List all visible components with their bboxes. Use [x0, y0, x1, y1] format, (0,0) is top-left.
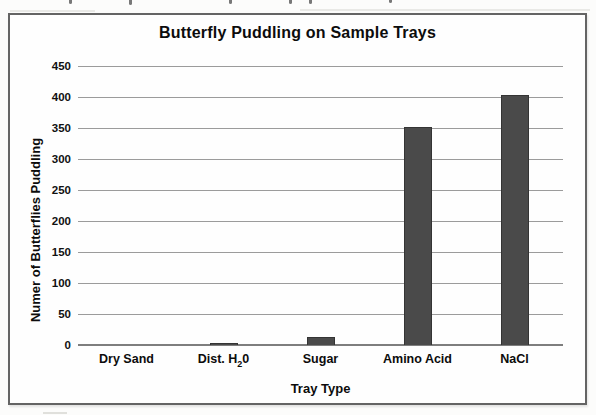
- x-tick-label-amino-acid: Amino Acid: [369, 352, 466, 368]
- scan-artifact-streak: [43, 412, 67, 414]
- scan-artifact-descender: [229, 0, 232, 4]
- scan-artifact-descender: [389, 0, 392, 3]
- y-tick-label-50: 50: [0, 306, 71, 322]
- gridline-300: [78, 159, 563, 160]
- y-tick-label-400: 400: [0, 89, 71, 105]
- y-tick-label-300: 300: [0, 151, 71, 167]
- bar-amino-acid: [404, 127, 432, 345]
- y-tick-label-250: 250: [0, 182, 71, 198]
- scan-artifact-descender: [289, 0, 292, 4]
- gridline-200: [78, 221, 563, 222]
- x-tick-label-dist-h-0: Dist. H20: [175, 352, 272, 368]
- bar-nacl: [501, 95, 529, 345]
- plot-area: [78, 66, 563, 345]
- gridline-350: [78, 128, 563, 129]
- y-tick-label-350: 350: [0, 120, 71, 136]
- scan-artifact-descender: [129, 0, 132, 5]
- scan-artifact-descender: [309, 0, 312, 4]
- scan-artifact-descender: [69, 0, 72, 4]
- scan-artifact-streak: [10, 10, 95, 12]
- y-tick-label-150: 150: [0, 244, 71, 260]
- y-tick-label-0: 0: [0, 337, 71, 353]
- gridline-100: [78, 283, 563, 284]
- x-tick-label-sugar: Sugar: [272, 352, 369, 368]
- gridline-450: [78, 66, 563, 67]
- y-tick-label-100: 100: [0, 275, 71, 291]
- x-axis-title: Tray Type: [78, 381, 563, 396]
- scanned-page: Butterfly Puddling on Sample Trays Numer…: [0, 0, 596, 415]
- gridline-150: [78, 252, 563, 253]
- gridline-50: [78, 314, 563, 315]
- gridline-250: [78, 190, 563, 191]
- x-tick-label-dry-sand: Dry Sand: [78, 352, 175, 368]
- y-tick-label-450: 450: [0, 58, 71, 74]
- chart-title: Butterfly Puddling on Sample Trays: [8, 24, 587, 42]
- x-tick-label-nacl: NaCl: [466, 352, 563, 368]
- y-tick-label-200: 200: [0, 213, 71, 229]
- gridline-400: [78, 97, 563, 98]
- bar-dist-h-0: [210, 343, 238, 345]
- bar-sugar: [307, 337, 335, 345]
- scan-artifact-streak: [300, 9, 590, 11]
